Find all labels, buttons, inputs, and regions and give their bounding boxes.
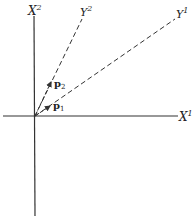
x2-label: X2: [27, 3, 42, 18]
coordinate-diagram: X2 Y2 Y1 X1 p2 p1: [0, 0, 195, 219]
p1-label: p1: [53, 100, 64, 113]
y1-label: Y1: [176, 6, 188, 21]
x2-axis: [34, 16, 35, 216]
p1-vector: [35, 106, 50, 116]
p2-label: p2: [54, 78, 65, 91]
x1-label: X1: [178, 109, 193, 124]
y2-label: Y2: [80, 4, 92, 19]
